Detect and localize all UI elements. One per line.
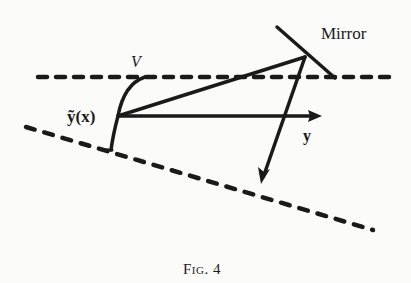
curve-v-label: V	[131, 54, 141, 70]
incident-ray	[118, 57, 305, 116]
mirror-label: Mirror	[321, 25, 366, 42]
figure-caption: Fig. 4	[183, 262, 221, 277]
reflected-arrowhead-icon	[258, 167, 270, 184]
y-axis-label: y	[303, 128, 311, 144]
point-label: ỹ(x)	[67, 108, 95, 125]
lower-dashed-boundary	[26, 127, 373, 230]
y-axis-arrowhead-icon	[308, 110, 322, 122]
